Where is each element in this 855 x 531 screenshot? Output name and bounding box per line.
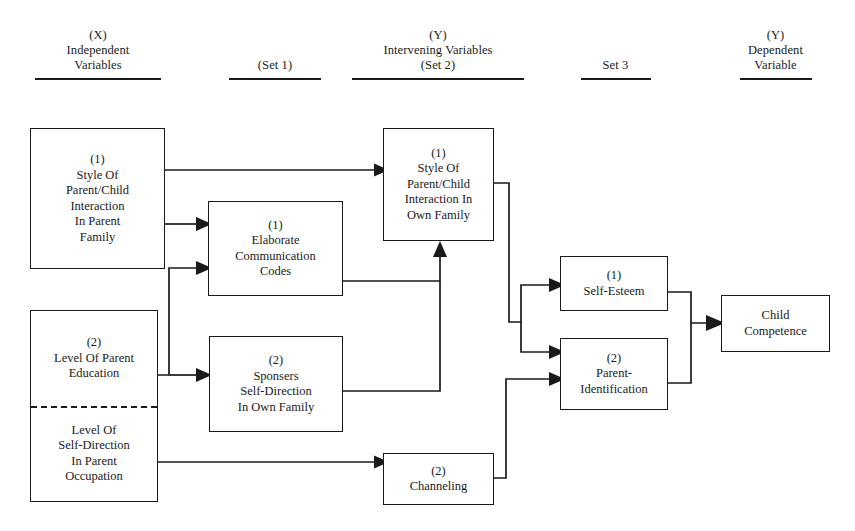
node-tag: (2)	[269, 353, 284, 369]
column-header-intervening: (Y) Intervening Variables (Set 2)	[335, 28, 541, 80]
column-header-line3: (Set 2)	[335, 58, 541, 73]
diagram-canvas: (X) Independent Variables (Set 1) (Y) In…	[0, 0, 855, 531]
node-channeling[interactable]: (2) Channeling	[383, 453, 494, 505]
node-child-competence[interactable]: Child Competence	[721, 295, 830, 352]
node-self-esteem[interactable]: (1) Self-Esteem	[560, 256, 668, 311]
node-label: Level Of Parent Education	[54, 351, 134, 382]
node-label: Self-Esteem	[583, 284, 644, 300]
column-header-line1: (Y)	[335, 28, 541, 43]
edge-elaborate-to-style-own	[343, 241, 447, 281]
column-header-line1: (Y)	[708, 28, 843, 43]
column-header-line2: Independent	[18, 43, 178, 58]
node-parent-identification[interactable]: (2) Parent- Identification	[560, 338, 668, 410]
node-parent-occupation[interactable]: Level Of Self-Direction In Parent Occupa…	[31, 406, 157, 501]
column-header-line3: Variable	[708, 58, 843, 73]
node-label: Elaborate Communication Codes	[235, 233, 316, 280]
edge-sponsers-to-style-own	[343, 281, 440, 391]
node-tag: (2)	[431, 464, 446, 480]
edge-style-parent-to-elaborate	[165, 217, 212, 231]
edge-set3-to-child-competence	[668, 292, 725, 383]
edge-occupation-to-channeling	[158, 456, 389, 469]
node-label: Child Competence	[744, 308, 806, 339]
column-header-set3: Set 3	[548, 58, 683, 80]
column-header-rule	[740, 78, 812, 80]
node-tag: (2)	[607, 351, 622, 367]
edge-education-to-elaborate	[158, 261, 212, 375]
edge-style-own-to-set3	[494, 183, 565, 359]
column-header-line2: (Set 1)	[205, 58, 345, 73]
column-header-line2: Dependent	[708, 43, 843, 58]
node-dashed-divider	[31, 406, 157, 408]
node-parent-education[interactable]: (2) Level Of Parent Education	[31, 311, 157, 406]
column-header-rule	[35, 78, 161, 80]
node-tag: (1)	[90, 152, 105, 168]
column-header-dependent: (Y) Dependent Variable	[708, 28, 843, 80]
column-header-line2: Intervening Variables	[335, 43, 541, 58]
node-tag: (1)	[607, 268, 622, 284]
column-header-line3: Variables	[18, 58, 178, 73]
node-parent-background[interactable]: (2) Level Of Parent Education Level Of S…	[30, 310, 158, 502]
node-label: Parent- Identification	[580, 366, 647, 397]
node-label: Style Of Parent/Child Interaction In Par…	[66, 168, 129, 246]
edge-education-to-sponsers	[169, 368, 212, 382]
edge-channeling-to-parent-identification	[494, 372, 565, 478]
node-tag: (1)	[431, 146, 446, 162]
column-header-independent: (X) Independent Variables	[18, 28, 178, 80]
column-header-rule	[581, 78, 651, 80]
node-tag: (2)	[87, 335, 102, 351]
column-header-line2: Set 3	[548, 58, 683, 73]
column-header-set1: (Set 1)	[205, 58, 345, 80]
node-label: Level Of Self-Direction In Parent Occupa…	[58, 423, 130, 485]
node-sponsers-self-direction[interactable]: (2) Sponsers Self-Direction In Own Famil…	[209, 336, 343, 432]
column-header-line1: (X)	[18, 28, 178, 43]
column-header-rule	[229, 78, 321, 80]
node-style-parent-family[interactable]: (1) Style Of Parent/Child Interaction In…	[30, 128, 165, 269]
node-label: Style Of Parent/Child Interaction In Own…	[405, 161, 473, 223]
node-label: Channeling	[410, 479, 468, 495]
node-style-own-family[interactable]: (1) Style Of Parent/Child Interaction In…	[383, 128, 494, 241]
node-elaborate-codes[interactable]: (1) Elaborate Communication Codes	[208, 201, 343, 296]
column-header-rule	[352, 78, 524, 80]
node-label: Sponsers Self-Direction In Own Family	[238, 369, 314, 416]
node-tag: (1)	[268, 218, 283, 234]
edge-style-parent-to-style-own	[165, 164, 389, 177]
